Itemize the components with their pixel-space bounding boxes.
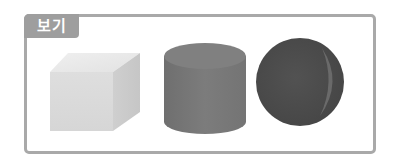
- cube-shape: [50, 53, 140, 131]
- shapes-illustration: [0, 0, 399, 165]
- sphere-shape: [256, 38, 344, 126]
- cylinder-shape: [164, 43, 246, 134]
